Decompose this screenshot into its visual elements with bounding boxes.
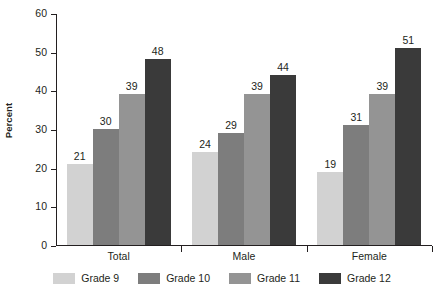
bar: 44 — [270, 75, 296, 245]
bar: 39 — [369, 94, 395, 245]
x-axis-group-label: Total — [108, 250, 130, 262]
bar-value-label: 39 — [376, 80, 388, 92]
y-axis-tick-label: 30 — [35, 123, 47, 135]
legend-swatch-icon — [319, 273, 341, 284]
plot-area: 0102030405060 213039482429394419313951 — [56, 14, 432, 246]
y-axis-tick: 50 — [56, 53, 57, 54]
y-axis-tick: 20 — [56, 169, 57, 170]
y-axis-title: Percent — [2, 0, 16, 240]
bar-value-label: 31 — [350, 111, 362, 123]
bar-value-label: 39 — [251, 80, 263, 92]
bar: 19 — [317, 172, 343, 245]
legend-item[interactable]: Grade 12 — [319, 272, 391, 284]
y-axis-tick-mark — [51, 207, 56, 208]
y-axis-tick-mark — [51, 246, 56, 247]
bar: 31 — [343, 125, 369, 245]
y-axis-tick-mark — [51, 130, 56, 131]
y-axis-tick-label: 10 — [35, 200, 47, 212]
legend-item-label: Grade 11 — [257, 272, 300, 284]
y-axis-tick: 40 — [56, 91, 57, 92]
y-axis-tick: 10 — [56, 207, 57, 208]
bar-value-label: 44 — [277, 61, 289, 73]
bar-value-label: 51 — [402, 34, 414, 46]
y-axis-tick: 60 — [56, 14, 57, 15]
legend-item-label: Grade 10 — [166, 272, 210, 284]
legend-swatch-icon — [53, 273, 75, 284]
y-axis-tick-label: 60 — [35, 7, 47, 19]
legend-item[interactable]: Grade 11 — [229, 272, 300, 284]
bar-chart: Percent 0102030405060 213039482429394419… — [0, 0, 444, 302]
y-axis-tick-mark — [51, 91, 56, 92]
bar-value-label: 30 — [100, 115, 112, 127]
bar: 30 — [93, 129, 119, 245]
legend-swatch-icon — [138, 273, 160, 284]
x-axis-group-separator-tick — [181, 246, 182, 252]
bar-value-label: 29 — [225, 119, 237, 131]
y-axis-title-label: Percent — [4, 102, 15, 138]
bar: 48 — [145, 59, 171, 245]
bar: 39 — [119, 94, 145, 245]
bar-value-label: 48 — [152, 45, 164, 57]
legend-swatch-icon — [229, 273, 251, 284]
x-axis-line — [56, 245, 432, 246]
x-axis-group-label: Male — [233, 250, 256, 262]
chart-legend: Grade 9Grade 10Grade 11Grade 12 — [0, 272, 444, 284]
bar-value-label: 19 — [324, 158, 336, 170]
y-axis-tick-label: 40 — [35, 84, 47, 96]
bar: 29 — [218, 133, 244, 245]
y-axis-tick-label: 50 — [35, 46, 47, 58]
bar: 51 — [395, 48, 421, 245]
x-axis-group-separator-tick — [307, 246, 308, 252]
x-axis-group-label: Female — [352, 250, 387, 262]
bar-value-label: 39 — [126, 80, 138, 92]
legend-item[interactable]: Grade 9 — [53, 272, 119, 284]
x-axis-group-separator-tick — [432, 246, 433, 252]
y-axis-tick-mark — [51, 53, 56, 54]
bar: 39 — [244, 94, 270, 245]
legend-item-label: Grade 9 — [81, 272, 119, 284]
bar-value-label: 21 — [74, 150, 86, 162]
legend-item[interactable]: Grade 10 — [138, 272, 210, 284]
y-axis-tick: 30 — [56, 130, 57, 131]
bar: 24 — [192, 152, 218, 245]
bar: 21 — [67, 164, 93, 245]
legend-item-label: Grade 12 — [347, 272, 391, 284]
y-axis-tick-mark — [51, 14, 56, 15]
y-axis-tick-label: 0 — [41, 239, 47, 251]
y-axis-tick-label: 20 — [35, 162, 47, 174]
bar-value-label: 24 — [199, 138, 211, 150]
y-axis-tick-mark — [51, 169, 56, 170]
y-axis-tick: 0 — [56, 246, 57, 247]
